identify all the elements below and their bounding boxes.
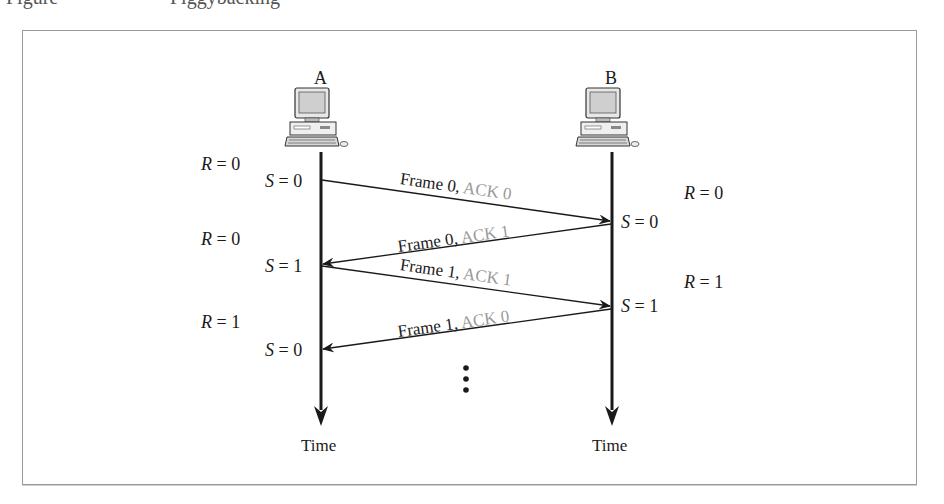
desktop-computer-icon [576, 88, 639, 147]
state-label-a-s: S = 0 [265, 341, 302, 359]
state-label-b-s: S = 0 [621, 213, 658, 231]
state-label-b-s: S = 1 [621, 297, 658, 315]
time-label-b: Time [592, 437, 627, 454]
state-label-a-r: R = 0 [201, 155, 240, 173]
state-label-a-s: S = 0 [265, 172, 302, 190]
state-label-a-r: R = 1 [201, 313, 240, 331]
timeline-b [605, 152, 619, 426]
timeline-a [314, 152, 328, 426]
time-label-a: Time [301, 437, 336, 454]
state-label-b-r: R = 1 [684, 273, 723, 291]
vertical-ellipsis-icon [463, 365, 469, 393]
state-label-a-r: R = 0 [201, 230, 240, 248]
node-b-label: B [605, 69, 617, 87]
desktop-computer-icon [285, 88, 348, 147]
state-label-b-r: R = 0 [684, 184, 723, 202]
node-a-label: A [314, 69, 327, 87]
state-label-a-s: S = 1 [265, 257, 302, 275]
sequence-diagram [0, 0, 944, 504]
